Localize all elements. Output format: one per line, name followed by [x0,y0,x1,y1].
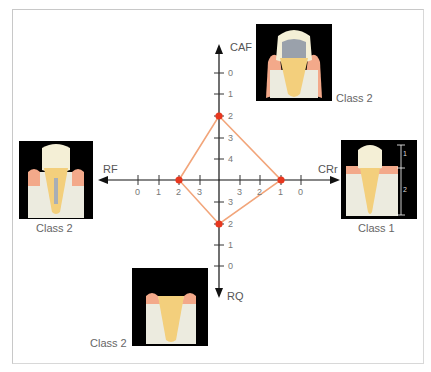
radar-axes [0,0,431,372]
tick-right-2: 2 [257,187,262,197]
point-up [215,112,222,119]
tick-up-2: 2 [228,111,233,121]
tooth-image-top [256,24,332,101]
axis-label-rq: RQ [227,290,244,302]
axis-label-caf: CAF [230,41,252,53]
panel-label-right: Class 1 [358,222,395,234]
measure-crown: 1 [403,150,407,157]
arrow-down-icon [215,288,223,298]
tick-up-4: 4 [228,154,233,164]
tick-down-3: 3 [228,197,233,207]
tick-right-1: 1 [278,187,283,197]
point-right [277,176,284,183]
arrow-right-icon [330,176,340,184]
tooth-image-bottom [132,268,208,346]
tick-up-3: 3 [228,133,233,143]
measure-root: 2 [403,186,407,193]
tick-up-0: 0 [228,68,233,78]
tick-left-2: 2 [176,187,181,197]
tick-right-3: 3 [237,187,242,197]
tick-down-0: 0 [228,261,233,271]
point-left [175,176,182,183]
tick-down-1: 1 [228,240,233,250]
axis-label-crr: CRr [318,163,338,175]
arrow-up-icon [215,44,223,54]
tick-up-1: 1 [228,89,233,99]
point-down [215,220,222,227]
tick-left-1: 1 [156,187,161,197]
tick-down-2: 2 [228,219,233,229]
panel-label-left: Class 2 [36,222,73,234]
tooth-image-left [19,141,93,219]
panel-label-bottom: Class 2 [90,337,127,349]
tick-left-0: 0 [135,187,140,197]
axis-label-rf: RF [103,163,118,175]
tick-left-3: 3 [197,187,202,197]
tick-right-0: 0 [298,187,303,197]
panel-label-top: Class 2 [336,92,373,104]
arrow-left-icon [98,176,108,184]
